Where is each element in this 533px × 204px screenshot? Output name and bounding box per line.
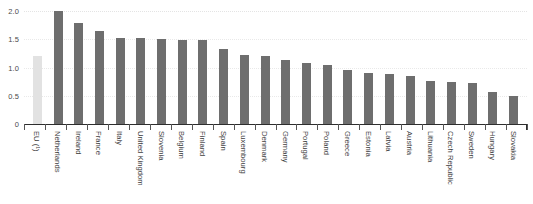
axis-tick [527, 124, 528, 130]
x-axis-tick-label: Belgium [177, 131, 186, 159]
bar[interactable] [447, 82, 456, 124]
bar-slot [89, 11, 110, 124]
bar[interactable] [33, 56, 42, 124]
bar-slot [482, 11, 503, 124]
bar[interactable] [116, 38, 125, 124]
bar-slot [193, 11, 214, 124]
x-axis-tick-label: Slovakia [508, 131, 517, 160]
x-axis-labels: EU (¹)NetherlandsIrelandFranceItalyUnite… [24, 131, 527, 203]
x-label-slot: Slovakia [503, 131, 524, 203]
axis-tick [255, 124, 256, 130]
axis-tick [422, 124, 423, 130]
bar-slot [462, 11, 483, 124]
x-label-slot: Luxembourg [234, 131, 255, 203]
x-label-slot: Czech Republic [441, 131, 462, 203]
bar-slot [358, 11, 379, 124]
bar[interactable] [74, 23, 83, 124]
axis-tick [234, 124, 235, 130]
x-axis-tick-label: Denmark [260, 131, 269, 162]
bar[interactable] [281, 60, 290, 124]
x-axis-tick-label: EU (¹) [32, 131, 41, 152]
bar-slot [296, 11, 317, 124]
y-axis-tick-label: 1.0 [8, 63, 19, 72]
bar[interactable] [240, 55, 249, 124]
x-axis-tick-label: Estonia [363, 131, 372, 157]
axis-tick [150, 124, 151, 130]
bar[interactable] [385, 74, 394, 124]
x-label-slot: Latvia [379, 131, 400, 203]
bar[interactable] [364, 73, 373, 124]
x-label-slot: United Kingdom [131, 131, 152, 203]
x-axis-tick-label: United Kingdom [135, 131, 144, 186]
x-axis-tick-label: Ireland [73, 131, 82, 155]
x-axis-tick-label: Lithuania [425, 131, 434, 162]
y-axis-tick-label: 2.0 [8, 7, 19, 16]
y-axis-tick-label: 0 [15, 120, 19, 129]
bar[interactable] [178, 40, 187, 124]
axis-tick [464, 124, 465, 130]
x-axis-tick-label: Netherlands [53, 131, 62, 173]
plot-area [24, 11, 527, 124]
x-axis-tick-label: Germany [280, 131, 289, 163]
y-axis-tick-label: 0.5 [8, 91, 19, 100]
bar-slot [110, 11, 131, 124]
axis-tick [192, 124, 193, 130]
bar-slot [172, 11, 193, 124]
x-axis-ticks [24, 124, 527, 131]
bar-slot [503, 11, 524, 124]
axis-tick [129, 124, 130, 130]
x-axis-tick-label: Italy [115, 131, 124, 145]
x-axis-tick-label: Latvia [384, 131, 393, 152]
bar-slot [27, 11, 48, 124]
bar[interactable] [95, 31, 104, 124]
axis-tick [24, 124, 25, 130]
bar[interactable] [302, 63, 311, 124]
x-label-slot: Estonia [358, 131, 379, 203]
bar-slot [317, 11, 338, 124]
bar-slot [131, 11, 152, 124]
x-label-slot: Ireland [68, 131, 89, 203]
axis-tick [171, 124, 172, 130]
bar[interactable] [136, 38, 145, 124]
x-label-slot: EU (¹) [27, 131, 48, 203]
x-axis-tick-label: Sweden [467, 131, 476, 159]
axis-tick [276, 124, 277, 130]
axis-tick [506, 124, 507, 130]
x-label-slot: Italy [110, 131, 131, 203]
x-label-slot: Spain [213, 131, 234, 203]
bar[interactable] [157, 39, 166, 124]
bar-slot [420, 11, 441, 124]
bar[interactable] [488, 92, 497, 124]
bar[interactable] [219, 49, 228, 124]
bar-slot [213, 11, 234, 124]
bar[interactable] [198, 40, 207, 124]
bar[interactable] [343, 70, 352, 124]
bar-slot [379, 11, 400, 124]
bar[interactable] [468, 83, 477, 124]
x-axis-tick-label: Spain [218, 131, 227, 151]
bar-slot [275, 11, 296, 124]
bar[interactable] [426, 81, 435, 124]
bar[interactable] [54, 11, 63, 124]
axis-tick [45, 124, 46, 130]
axis-tick [108, 124, 109, 130]
axis-tick [338, 124, 339, 130]
bar-slot [400, 11, 421, 124]
bar-slot [234, 11, 255, 124]
x-label-slot: Greece [338, 131, 359, 203]
axis-tick [296, 124, 297, 130]
x-axis-tick-label: France [94, 131, 103, 155]
bar-slot [48, 11, 69, 124]
bar-slot [338, 11, 359, 124]
bar-series [24, 11, 527, 124]
axis-tick [359, 124, 360, 130]
x-label-slot: Finland [193, 131, 214, 203]
x-label-slot: Belgium [172, 131, 193, 203]
axis-tick [443, 124, 444, 130]
x-axis-tick-label: Hungary [487, 131, 496, 160]
bar[interactable] [406, 76, 415, 124]
bar[interactable] [261, 56, 270, 124]
bar[interactable] [509, 96, 518, 124]
bar[interactable] [323, 65, 332, 124]
x-axis-tick-label: Austria [405, 131, 414, 155]
